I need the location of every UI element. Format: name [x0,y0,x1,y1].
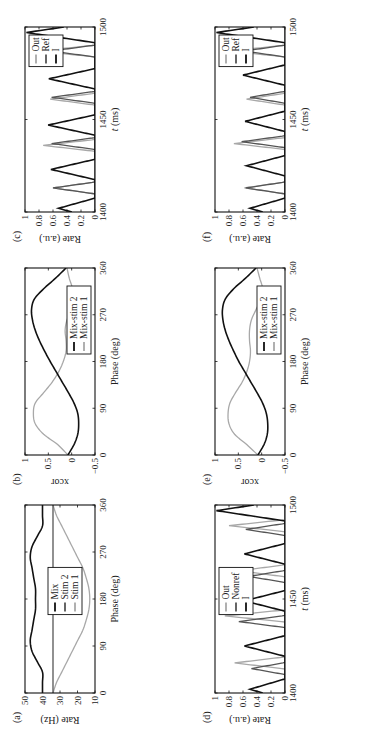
y-tick-label: 0 [280,696,290,701]
x-tick-label: 1450 [98,110,108,129]
y-tick-label: 0.2 [266,215,276,226]
y-tick-label: −0.5 [90,458,100,475]
legend: OutRefI [219,35,253,67]
x-tick-label: 1500 [288,496,298,515]
legend-entry-ref: Ref [231,37,241,52]
x-tick-label: 270 [98,545,108,559]
x-tick-label: 0 [98,690,108,695]
x-tick-label: 90 [98,403,108,413]
legend-entry-out: Out [31,37,41,52]
legend-entry-stim-2: Stim 2 [60,574,70,599]
y-tick-label: 0.6 [238,696,248,708]
x-tick-label: 360 [98,498,108,512]
x-axis-label: Phase (deg) [299,338,311,385]
x-tick-label: 180 [98,592,108,606]
x-tick-label: 270 [98,308,108,322]
figure: 0901802703601020304050Phase (deg)Rate (H… [0,0,371,732]
panel-label: (a) [11,712,23,723]
panel-f: 14001450150000.20.40.60.81t (ms)Rate (a.… [201,18,311,246]
y-tick-label: 1 [20,458,30,463]
y-tick-label: 0 [257,458,267,463]
legend-entry-mix-stim-1: Mix-stim 1 [79,296,89,339]
y-tick-label: 0.8 [224,696,234,708]
y-tick-label: 0.6 [48,215,58,227]
panel-d: 14001450150000.20.40.60.81t (ms)Rate (a.… [201,496,311,727]
y-tick-label: 0 [67,458,77,463]
x-tick-label: 360 [98,261,108,275]
legend: MixStim 2Stim 1 [48,567,82,614]
legend-entry-out: Out [221,585,231,600]
x-tick-label: 180 [288,354,298,368]
y-tick-label: 0.8 [34,215,44,227]
legend-entry-mix-stim-1: Mix-stim 1 [269,296,279,339]
y-axis-label: Rate (Hz) [40,714,79,726]
legend-entry-mix-stim-2: Mix-stim 2 [259,296,269,339]
x-tick-label: 1500 [288,18,298,37]
y-axis-label: Rate (a.u.) [229,714,271,726]
y-tick-label: 10 [90,696,100,706]
panel-label: (c) [11,231,23,242]
panel-label: (e) [201,474,213,485]
x-tick-label: 0 [98,452,108,457]
legend-entry-nonref: Nonref [231,572,241,600]
y-tick-label: 20 [73,696,83,706]
x-tick-label: 180 [98,354,108,368]
y-tick-label: 0.4 [252,696,262,708]
y-tick-label: 1 [210,696,220,701]
y-axis-label: Rate (a.u.) [39,233,81,245]
legend-entry-out: Out [221,37,231,52]
y-tick-label: 0.2 [76,215,86,226]
panel-label: (f) [201,232,213,242]
panel-e: 090180270360−0.500.51Phase (deg)xcor(e)M… [201,261,311,488]
panel-b: 090180270360−0.500.51Phase (deg)xcor(b)M… [11,261,121,488]
x-axis-label: Phase (deg) [109,576,121,623]
x-tick-label: 90 [98,641,108,651]
y-tick-label: 1 [210,458,220,463]
x-axis-label: t (ms) [299,108,311,132]
y-tick-label: 0 [280,215,290,220]
x-tick-label: 270 [288,308,298,322]
legend-entry-i: I [51,48,61,51]
panel-label: (b) [11,473,23,485]
y-tick-label: 0.8 [224,215,234,227]
panel-a: 0901802703601020304050Phase (deg)Rate (H… [11,498,121,726]
y-tick-label: −0.5 [280,458,290,475]
y-axis-label: xcor [50,477,68,488]
y-tick-label: 50 [20,696,30,706]
y-tick-label: 0.4 [252,215,262,227]
y-tick-label: 1 [20,215,30,220]
panel-c: 14001450150000.20.40.60.81t (ms)Rate (a.… [11,18,121,246]
x-axis-label: Phase (deg) [109,338,121,385]
x-tick-label: 1450 [288,110,298,129]
y-tick-label: 0.5 [43,458,53,470]
y-axis-label: xcor [240,477,258,488]
y-tick-label: 40 [38,696,48,706]
legend: OutNonrefI [219,567,253,614]
x-tick-label: 90 [288,403,298,413]
legend: Mix-stim 2Mix-stim 1 [67,286,91,354]
panel-label: (d) [201,711,213,723]
series-mix-line [30,505,43,693]
x-axis-label: t (ms) [299,587,311,611]
x-tick-label: 0 [288,452,298,457]
y-tick-label: 0 [90,215,100,220]
y-tick-label: 30 [55,696,65,706]
legend-entry-mix: Mix [50,584,60,600]
y-axis-label: Rate (a.u.) [229,233,271,245]
y-tick-label: 1 [210,215,220,220]
legend: OutRefI [29,35,63,67]
y-tick-label: 0.2 [266,696,276,707]
legend: Mix-stim 2Mix-stim 1 [257,286,281,354]
rotated-figure-group: 0901802703601020304050Phase (deg)Rate (H… [11,18,311,727]
x-tick-label: 1500 [98,18,108,37]
y-tick-label: 0.6 [238,215,248,227]
x-tick-label: 1450 [288,590,298,609]
y-tick-label: 0.5 [233,458,243,470]
x-tick-label: 360 [288,261,298,275]
legend-entry-i: I [241,596,251,599]
x-axis-label: t (ms) [109,108,121,132]
legend-entry-i: I [241,48,251,51]
y-tick-label: 0.4 [62,215,72,227]
legend-entry-mix-stim-2: Mix-stim 2 [69,296,79,339]
legend-entry-stim-1: Stim 1 [70,574,80,599]
